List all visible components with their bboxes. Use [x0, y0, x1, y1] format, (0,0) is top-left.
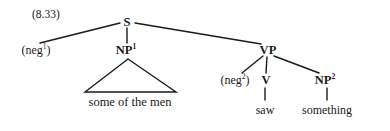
terminal-something-text: something — [302, 103, 352, 117]
terminal-saw: saw — [256, 104, 275, 116]
example-number: (8.33) — [32, 9, 60, 21]
terminal-saw-text: saw — [256, 103, 275, 117]
edge-s-to-neg1 — [40, 23, 120, 43]
node-np1: NP1 — [116, 44, 137, 57]
node-v: V — [261, 74, 270, 87]
syntax-tree-figure: (8.33) S (neg1) NP1 VP (neg2) V — [0, 0, 390, 131]
edge-vp-to-v — [266, 57, 267, 73]
node-np2-superscript: 2 — [332, 72, 336, 81]
node-neg1-label: (neg — [21, 43, 42, 57]
node-neg2: (neg2) — [220, 74, 249, 86]
node-neg1: (neg1) — [21, 44, 50, 56]
node-vp-label: VP — [260, 43, 277, 57]
edge-vp-to-neg2 — [242, 56, 263, 73]
terminal-something: something — [302, 104, 352, 116]
node-neg2-close-paren: ) — [246, 73, 250, 87]
node-neg1-close-paren: ) — [47, 43, 51, 57]
edge-vp-to-np2 — [274, 56, 319, 73]
node-s-label: S — [123, 15, 130, 29]
node-vp: VP — [260, 44, 277, 57]
node-neg2-label: (neg — [220, 73, 241, 87]
terminal-some-of-the-men-text: some of the men — [89, 95, 172, 109]
node-np2: NP2 — [315, 74, 336, 87]
node-np1-superscript: 1 — [133, 42, 137, 51]
node-np1-label: NP — [116, 43, 133, 57]
node-v-label: V — [261, 73, 270, 87]
node-np2-label: NP — [315, 73, 332, 87]
node-s: S — [123, 16, 130, 29]
np1-abbreviation-triangle — [85, 59, 176, 92]
edge-s-to-vp — [135, 23, 261, 44]
terminal-some-of-the-men: some of the men — [89, 96, 172, 109]
